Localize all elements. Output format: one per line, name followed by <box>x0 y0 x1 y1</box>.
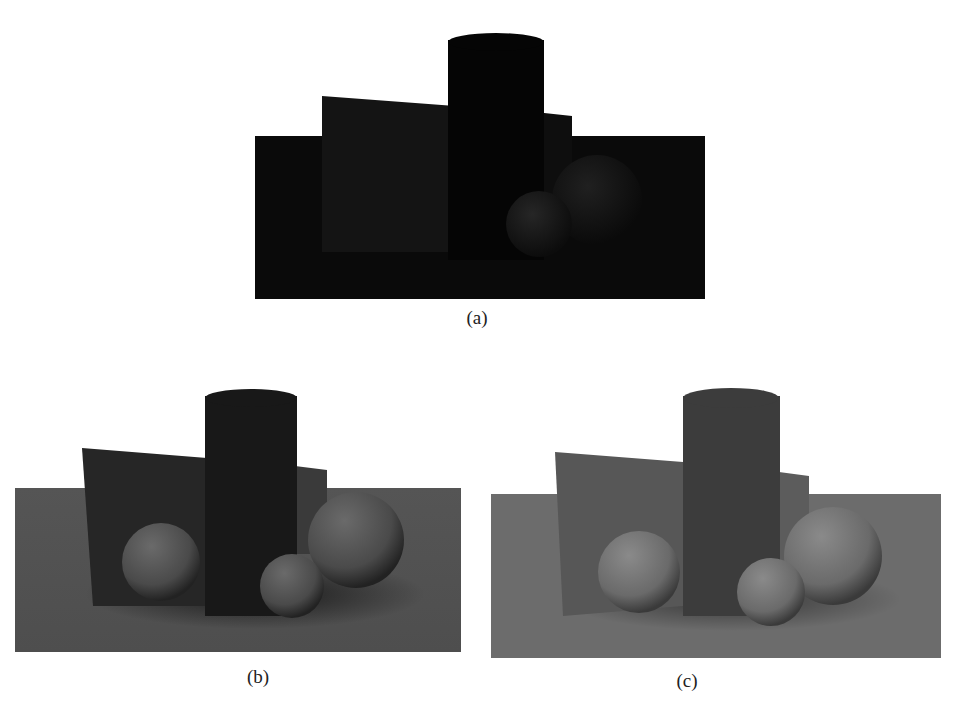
sphere-front <box>260 554 324 618</box>
scene-c-image <box>491 384 941 658</box>
sphere-left <box>122 523 200 601</box>
wall-panel <box>322 96 455 252</box>
subfigure-c-render <box>491 384 941 658</box>
cylinder-top <box>683 388 779 408</box>
scene-b-image <box>15 384 461 652</box>
sphere-left <box>598 531 680 613</box>
sphere-right <box>308 492 404 588</box>
caption-c: (c) <box>676 670 697 692</box>
subfigure-b-render <box>15 384 461 652</box>
sphere-front <box>506 191 572 257</box>
subfigure-a-render <box>255 30 705 300</box>
caption-a: (a) <box>466 307 487 329</box>
sphere-front <box>737 558 805 626</box>
cylinder-top <box>448 33 544 51</box>
scene-a-image <box>255 30 705 300</box>
cylinder-top <box>205 389 297 407</box>
caption-b: (b) <box>247 666 269 688</box>
